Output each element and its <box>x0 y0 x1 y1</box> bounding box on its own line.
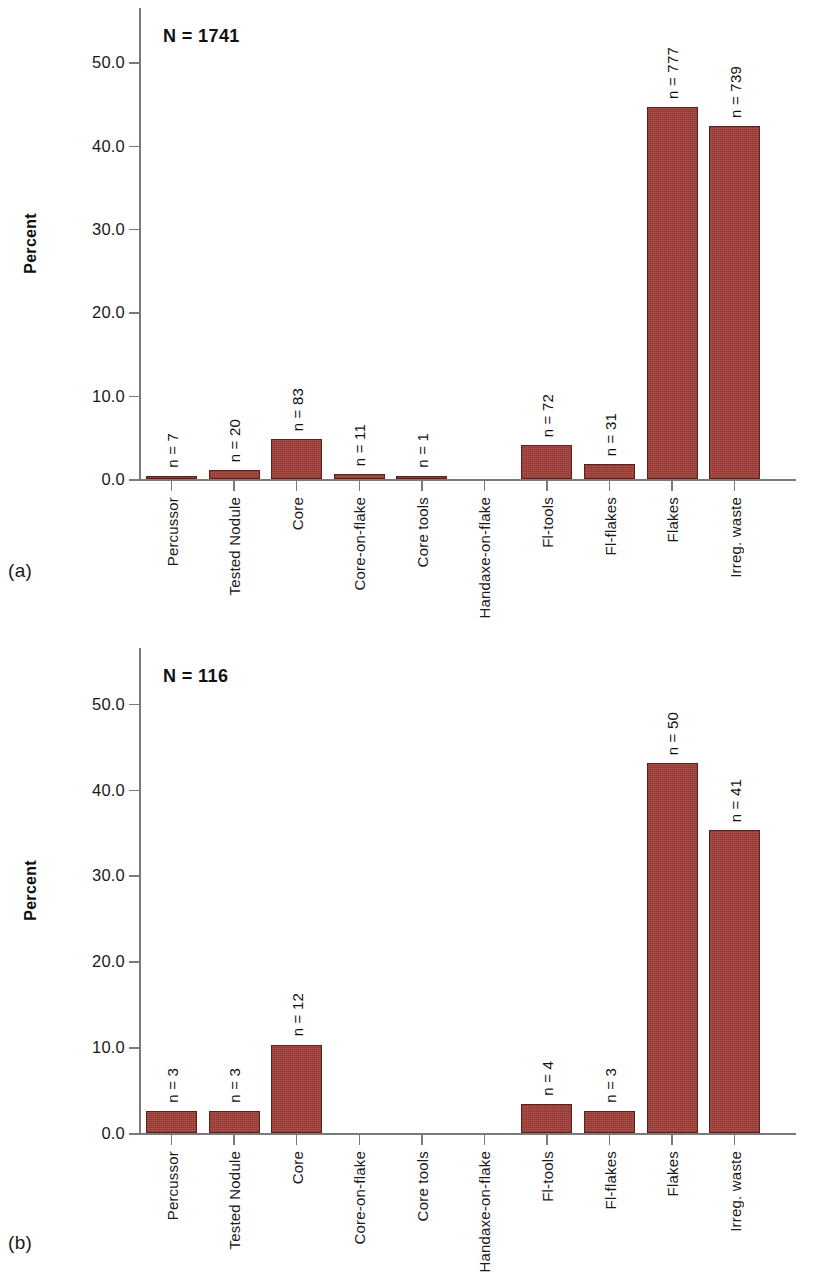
x-axis-category-label: Percussor <box>164 1151 181 1220</box>
y-axis-tick <box>129 875 139 877</box>
bar-value-label: n = 3 <box>226 1068 243 1103</box>
x-axis-category-label: Core-on-flake <box>351 497 368 590</box>
y-axis-line-a <box>139 8 141 481</box>
x-axis-category-label: Core-on-flake <box>351 1151 368 1244</box>
y-axis-tick-label: 30.0 <box>92 866 125 885</box>
x-axis-tick <box>484 1134 486 1145</box>
y-axis-tick-label: 0.0 <box>101 1124 125 1143</box>
bar <box>209 470 260 479</box>
y-axis-tick <box>129 479 139 481</box>
bar <box>146 476 197 479</box>
x-axis-tick <box>296 1134 298 1145</box>
x-axis-tick <box>546 1134 548 1145</box>
x-axis-tick <box>233 480 235 491</box>
bar-value-label: n = 7 <box>164 433 181 468</box>
x-axis-category-label: Fl-flakes <box>602 497 619 555</box>
x-axis-category-label: Flakes <box>664 1151 681 1196</box>
x-axis-category-label: Handaxe-on-flake <box>476 1151 493 1273</box>
x-axis-category-label: Percussor <box>164 497 181 566</box>
y-axis-title-a: Percent <box>22 213 40 274</box>
x-axis-category-label: Handaxe-on-flake <box>476 497 493 619</box>
bar-value-label: n = 83 <box>289 388 306 431</box>
bar-value-label: n = 41 <box>727 779 744 822</box>
y-axis-tick-label: 40.0 <box>92 780 125 799</box>
y-axis-tick-label: 50.0 <box>92 694 125 713</box>
x-axis-category-label: Irreg. waste <box>727 1151 744 1232</box>
chart-panel-b: Percent N = 116 0.010.020.030.040.050.0P… <box>0 640 822 1279</box>
bar-value-label: n = 12 <box>289 993 306 1036</box>
bar <box>334 474 385 479</box>
x-axis-category-label: Fl-tools <box>539 1151 556 1202</box>
y-axis-tick <box>129 1133 139 1135</box>
x-axis-category-label: Tested Nodule <box>226 497 243 596</box>
x-axis-tick <box>171 1134 173 1145</box>
x-axis-line-b <box>139 1133 796 1135</box>
x-axis-category-label: Fl-tools <box>539 497 556 548</box>
y-axis-tick-label: 40.0 <box>92 136 125 155</box>
y-axis-tick <box>129 961 139 963</box>
chart-panel-a: Percent N = 1741 0.010.020.030.040.050.0… <box>0 0 822 640</box>
x-axis-category-label: Flakes <box>664 497 681 542</box>
y-axis-tick <box>129 1047 139 1049</box>
x-axis-tick <box>421 1134 423 1145</box>
y-axis-tick <box>129 62 139 64</box>
x-axis-tick <box>359 480 361 491</box>
y-axis-tick-label: 50.0 <box>92 53 125 72</box>
bar-value-label: n = 739 <box>727 66 744 118</box>
y-axis-tick <box>129 229 139 231</box>
x-axis-tick <box>671 480 673 491</box>
bar-value-label: n = 31 <box>602 413 619 456</box>
y-axis-tick <box>129 146 139 148</box>
bar <box>584 1111 635 1133</box>
x-axis-tick <box>233 1134 235 1145</box>
bar <box>709 830 760 1133</box>
bar <box>709 126 760 479</box>
x-axis-tick <box>609 480 611 491</box>
bar <box>271 439 322 479</box>
x-axis-tick <box>546 480 548 491</box>
x-axis-tick <box>359 1134 361 1145</box>
bar <box>396 476 447 479</box>
y-axis-tick <box>129 790 139 792</box>
x-axis-category-label: Core <box>289 1151 306 1184</box>
bar <box>271 1045 322 1133</box>
x-axis-category-label: Core tools <box>414 497 431 567</box>
x-axis-tick <box>421 480 423 491</box>
y-axis-tick <box>129 396 139 398</box>
bar-value-label: n = 777 <box>664 47 681 99</box>
bar <box>521 1104 572 1133</box>
y-axis-title-b: Percent <box>22 860 40 921</box>
y-axis-line-b <box>139 648 141 1135</box>
y-axis-tick-label: 30.0 <box>92 219 125 238</box>
bar-value-label: n = 1 <box>414 433 431 468</box>
bar <box>647 763 698 1133</box>
bar <box>647 107 698 479</box>
y-axis-tick-label: 10.0 <box>92 1038 125 1057</box>
y-axis-tick-label: 10.0 <box>92 386 125 405</box>
panel-letter-b: (b) <box>8 1232 32 1254</box>
bar-value-label: n = 4 <box>539 1061 556 1096</box>
x-axis-category-label: Irreg. waste <box>727 497 744 578</box>
panel-letter-a: (a) <box>8 560 32 582</box>
bar <box>146 1111 197 1133</box>
x-axis-tick <box>671 1134 673 1145</box>
y-axis-tick <box>129 312 139 314</box>
bar-value-label: n = 3 <box>602 1068 619 1103</box>
x-axis-category-label: Core <box>289 497 306 530</box>
bar-value-label: n = 50 <box>664 712 681 755</box>
y-axis-tick-label: 20.0 <box>92 303 125 322</box>
x-axis-line-a <box>139 479 796 481</box>
y-axis-tick-label: 20.0 <box>92 952 125 971</box>
plot-area-b: 0.010.020.030.040.050.0Percussorn = 3Tes… <box>139 648 796 1133</box>
bar-value-label: n = 72 <box>539 394 556 437</box>
x-axis-tick <box>484 480 486 491</box>
bar-value-label: n = 11 <box>351 424 368 466</box>
bar <box>521 445 572 479</box>
x-axis-tick <box>171 480 173 491</box>
x-axis-tick <box>734 480 736 491</box>
y-axis-tick-label: 0.0 <box>101 470 125 489</box>
bar <box>584 464 635 479</box>
x-axis-tick <box>609 1134 611 1145</box>
plot-area-a: 0.010.020.030.040.050.0Percussorn = 7Tes… <box>139 8 796 479</box>
bar-value-label: n = 20 <box>226 419 243 462</box>
